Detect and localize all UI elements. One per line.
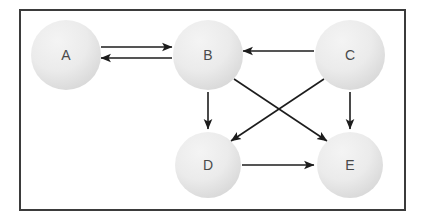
node-e-label: E [345, 157, 354, 173]
node-d[interactable]: D [175, 132, 241, 198]
node-d-label: D [203, 157, 213, 173]
node-a[interactable]: A [31, 20, 101, 90]
node-a-label: A [61, 47, 71, 63]
edge-b-to-e [234, 79, 327, 141]
node-e[interactable]: E [317, 132, 383, 198]
node-c-label: C [345, 47, 355, 63]
node-b-label: B [203, 47, 212, 63]
graph-canvas: A B C D E [0, 0, 425, 221]
node-c[interactable]: C [315, 20, 385, 90]
edge-c-to-d [231, 79, 324, 141]
diagram-screenshot: A B C D E [0, 0, 425, 221]
node-b[interactable]: B [173, 20, 243, 90]
